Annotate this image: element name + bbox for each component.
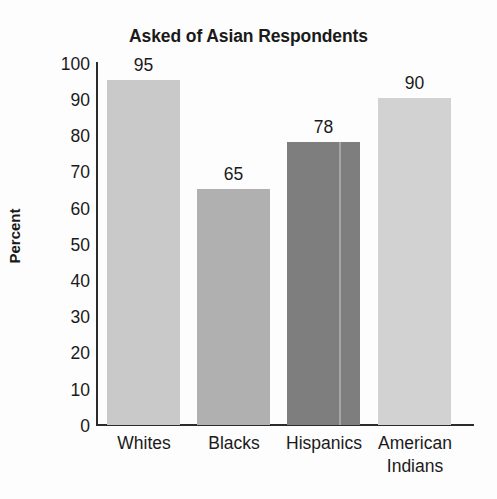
y-tick-60: 60	[30, 200, 90, 218]
bar-chart: Asked of Asian Respondents Percent 100 9…	[0, 0, 497, 499]
y-tick-80: 80	[30, 127, 90, 145]
bar-american-indians[interactable]	[378, 98, 451, 425]
bar-whites[interactable]	[107, 80, 180, 425]
x-label-whites: Whites	[96, 432, 192, 455]
value-label-hispanics: 78	[287, 118, 360, 137]
value-label-american-indians: 90	[378, 74, 451, 93]
y-tick-20: 20	[30, 344, 90, 362]
value-label-whites: 95	[107, 56, 180, 75]
x-axis-tick-labels: Whites Blacks Hispanics American Indians	[98, 432, 474, 494]
bar-hispanics-seam	[339, 142, 341, 425]
y-axis-tick-labels: 100 90 80 70 60 50 40 30 20 10 0	[26, 0, 90, 499]
x-label-american-indians-line1: American	[378, 433, 452, 453]
bar-blacks[interactable]	[197, 189, 270, 425]
x-label-blacks: Blacks	[186, 432, 282, 455]
x-label-hispanics: Hispanics	[276, 432, 372, 455]
bar-hispanics[interactable]	[287, 142, 360, 425]
value-label-blacks: 65	[197, 165, 270, 184]
y-tick-50: 50	[30, 236, 90, 254]
y-tick-90: 90	[30, 91, 90, 109]
y-tick-100: 100	[30, 55, 90, 73]
x-label-american-indians: American Indians	[367, 432, 463, 478]
y-tick-70: 70	[30, 163, 90, 181]
y-axis-title: Percent	[6, 176, 23, 296]
y-tick-40: 40	[30, 272, 90, 290]
x-label-american-indians-line2: Indians	[387, 456, 443, 476]
y-tick-0: 0	[30, 417, 90, 435]
y-tick-10: 10	[30, 381, 90, 399]
bar-series	[98, 62, 474, 425]
y-tick-30: 30	[30, 308, 90, 326]
